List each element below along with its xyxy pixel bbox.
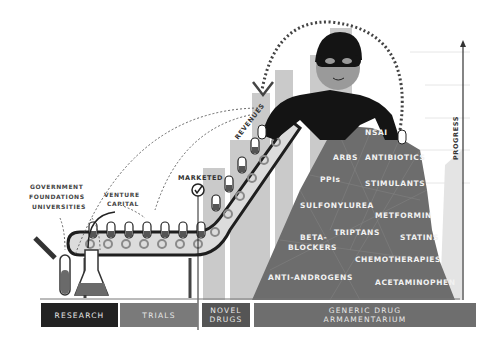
drug-class-chemotherapies: CHEMOTHERAPIES [355, 255, 441, 264]
stage-novel-line2: DRUGS [209, 315, 242, 324]
stage-generic-line2: ARMAMENTARIUM [324, 315, 407, 324]
drug-class-ppis: PPIs [320, 175, 341, 184]
funding-capital: CAPITAL [107, 200, 139, 207]
drug-class-stimulants: STIMULANTS [365, 179, 425, 188]
drug-class-beta: BETA- [300, 233, 327, 242]
drug-development-infographic: PROGRESS [0, 0, 503, 347]
drug-class-triptans: TRIPTANS [334, 228, 380, 237]
funding-government: GOVERNMENT [30, 183, 84, 190]
funding-venture: VENTURE [104, 191, 140, 198]
progress-label: PROGRESS [452, 116, 460, 160]
drug-class-anti-androgens: ANTI-ANDROGENS [268, 273, 353, 282]
funding-universities: UNIVERSITIES [32, 203, 86, 210]
stage-research: RESEARCH [41, 303, 118, 327]
stage-research-label: RESEARCH [55, 311, 105, 320]
drug-class-acetaminophen: ACETAMINOPHEN [375, 278, 456, 287]
stage-generic-armamentarium: GENERIC DRUG ARMAMENTARIUM [254, 303, 476, 327]
stage-novel-line1: NOVEL [210, 306, 241, 315]
drug-class-nsai: NSAI [365, 128, 388, 137]
drug-class-arbs: ARBS [333, 153, 358, 162]
funding-foundations: FOUNDATIONS [29, 193, 85, 200]
drug-class-blockers: BLOCKERS [288, 243, 337, 252]
drug-class-antibiotics: ANTIBIOTICS [365, 153, 425, 162]
marketed-label: MARKETED [178, 174, 223, 182]
stage-generic-line1: GENERIC DRUG [329, 306, 402, 315]
drug-class-sulfonylurea: SULFONYLUREA [300, 201, 374, 210]
drug-class-statins: STATINS [400, 233, 439, 242]
stage-novel-drugs: NOVEL DRUGS [202, 303, 250, 327]
drug-class-metformin: METFORMIN [375, 211, 432, 220]
stage-trials: TRIALS [120, 303, 198, 327]
stage-trials-label: TRIALS [142, 311, 175, 320]
